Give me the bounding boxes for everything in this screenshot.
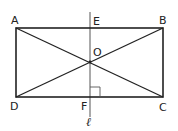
label-e: E (93, 15, 100, 28)
label-o: O (93, 46, 102, 59)
label-c: C (159, 101, 167, 114)
right-angle-marker (90, 87, 100, 97)
label-a: A (11, 14, 19, 27)
label-line-l: ℓ (86, 115, 91, 129)
label-f: F (81, 100, 87, 113)
point-o (89, 61, 92, 64)
rectangle-diagram: A E B O D F C ℓ (0, 0, 178, 131)
label-d: D (10, 100, 18, 113)
label-b: B (159, 14, 167, 27)
